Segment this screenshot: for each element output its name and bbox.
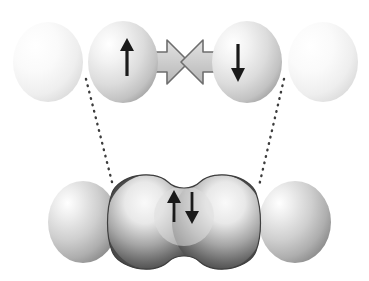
atom-sphere-inner-right (212, 21, 282, 103)
atom-sphere-outer-right (288, 22, 358, 102)
atom-sphere-outer-left (13, 22, 83, 102)
diagram-canvas (0, 0, 369, 281)
molecular-orbital-diagram: ↑ ↓ ↑↓ Formation of a covalent sigma bon… (0, 0, 369, 281)
atom-sphere-bottom-right (259, 181, 331, 263)
sigma-bonding-orbital (106, 174, 264, 270)
atom-sphere-inner-left (88, 21, 158, 103)
